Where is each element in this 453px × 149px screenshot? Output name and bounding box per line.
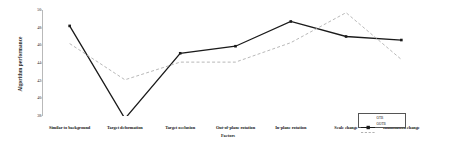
legend-label-otb: OTB: [377, 116, 384, 120]
chart-figure: Algorithm performance 50484644424038 Sim…: [0, 0, 453, 149]
data-point: [68, 25, 71, 28]
x-axis-label-1: Target deformation: [107, 125, 143, 130]
y-tick-mark: [40, 116, 42, 117]
data-point: [345, 35, 348, 38]
y-tick-mark: [40, 45, 42, 46]
legend-label-ootb: OOTB: [377, 122, 386, 126]
data-point: [234, 45, 237, 48]
chart-legend: OTB OOTB: [358, 113, 406, 128]
legend-item-ootb: OOTB: [361, 121, 403, 127]
y-axis-title-text: Algorithm performance: [17, 37, 23, 92]
data-point: [400, 39, 403, 42]
y-tick-mark: [40, 10, 42, 11]
x-axis-label-2: Target occlusion: [165, 125, 195, 130]
data-point: [289, 20, 292, 23]
legend-key-dashed-icon: [361, 121, 375, 126]
series-line-otb: [70, 21, 402, 116]
y-tick-mark: [40, 63, 42, 64]
x-axis-label-0: Similar to background: [49, 125, 90, 130]
y-axis-title: Algorithm performance: [14, 18, 26, 110]
x-axis-label-3: Out-of-plane rotation: [216, 125, 255, 130]
series-canvas: [42, 10, 429, 116]
plot-area: [42, 10, 429, 116]
x-axis-title-text: Factors: [221, 133, 235, 138]
legend-key-solid-icon: [361, 116, 375, 121]
y-tick-mark: [40, 27, 42, 28]
x-axis-label-5: Scale change: [334, 125, 357, 130]
y-tick-mark: [40, 98, 42, 99]
y-tick-mark: [40, 80, 42, 81]
x-axis-label-4: In-plane rotation: [275, 125, 306, 130]
data-point: [179, 52, 182, 55]
